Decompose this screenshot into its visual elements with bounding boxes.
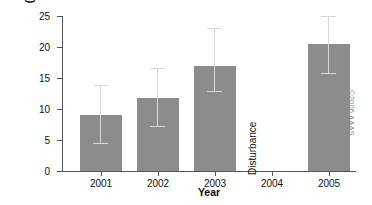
x-tick-2001 bbox=[101, 172, 102, 176]
y-tick-5: 5 bbox=[57, 140, 62, 141]
y-tick-15: 15 bbox=[57, 78, 62, 79]
error-bar-cap-upper-2005 bbox=[321, 16, 336, 17]
copyright-credit: ©2006 AAAS bbox=[347, 90, 356, 136]
error-bar-cap-upper-2003 bbox=[207, 28, 222, 29]
disturbance-annotation: Disturbance bbox=[247, 122, 258, 175]
y-axis-line bbox=[62, 16, 63, 172]
error-bar-cap-lower-2005 bbox=[321, 73, 336, 74]
error-bar-cap-lower-2001 bbox=[93, 143, 108, 144]
plot-area: 0 5 10 15 20 25 Dist bbox=[62, 16, 356, 172]
error-bar-cap-upper-2002 bbox=[150, 68, 165, 69]
error-bar-cap-lower-2003 bbox=[207, 91, 222, 92]
error-bar-line-2005 bbox=[328, 16, 329, 73]
error-bar-cap-lower-2002 bbox=[150, 126, 165, 127]
y-tick-label-10: 10 bbox=[39, 104, 50, 115]
disturbance-annotation-text: Disturbance bbox=[247, 122, 258, 175]
x-axis-title: Year bbox=[62, 186, 356, 198]
y-axis-title-line-2: (connected minus unconnected) bbox=[22, 0, 35, 13]
y-tick-20: 20 bbox=[57, 47, 62, 48]
y-tick-label-0: 0 bbox=[44, 166, 50, 177]
bar-2002 bbox=[137, 98, 179, 171]
x-axis-line bbox=[62, 171, 356, 172]
y-tick-label-25: 25 bbox=[39, 11, 50, 22]
x-tick-2003 bbox=[215, 172, 216, 176]
y-axis-title-line-2-text: (connected minus unconnected) bbox=[23, 0, 35, 13]
y-axis-title-line-1-text: Difference in species richness bbox=[10, 0, 22, 13]
y-tick-10: 10 bbox=[57, 109, 62, 110]
error-bar-line-2003 bbox=[214, 28, 215, 91]
y-tick-0: 0 bbox=[57, 171, 62, 172]
y-tick-label-20: 20 bbox=[39, 42, 50, 53]
error-bar-line-2001 bbox=[100, 85, 101, 143]
y-axis-title: Difference in species richness (connecte… bbox=[0, 0, 46, 205]
y-tick-label-15: 15 bbox=[39, 73, 50, 84]
y-tick-label-5: 5 bbox=[44, 135, 50, 146]
x-tick-2005 bbox=[329, 172, 330, 176]
bar-2003 bbox=[194, 66, 236, 171]
bar-chart-figure: Difference in species richness (connecte… bbox=[0, 0, 372, 205]
error-bar-cap-upper-2001 bbox=[93, 85, 108, 86]
error-bar-line-2002 bbox=[157, 68, 158, 126]
bar-2005 bbox=[308, 44, 350, 171]
y-axis-title-line-1: Difference in species richness bbox=[9, 0, 22, 13]
y-tick-25: 25 bbox=[57, 16, 62, 17]
x-tick-2002 bbox=[158, 172, 159, 176]
x-tick-2004 bbox=[272, 172, 273, 176]
